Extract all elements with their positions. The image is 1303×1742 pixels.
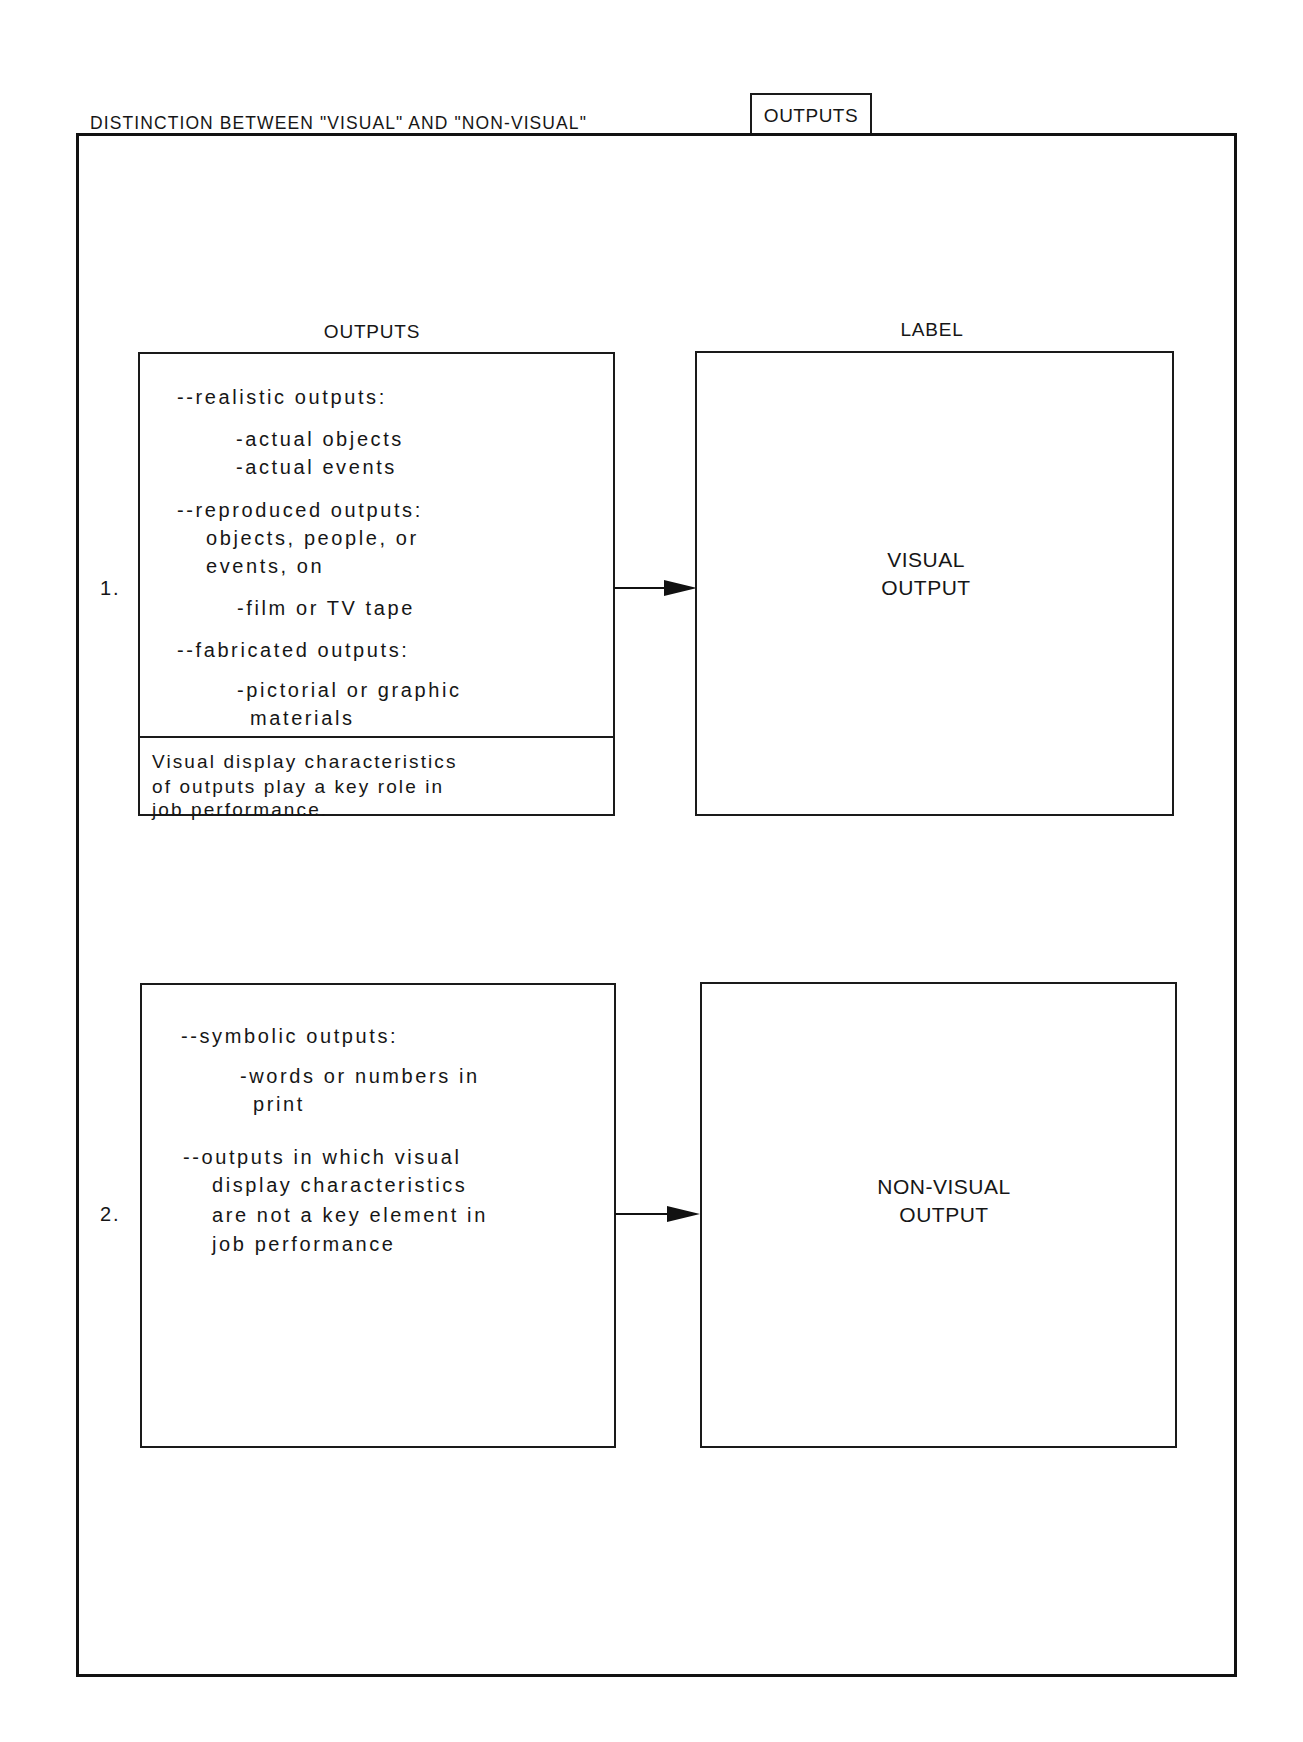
label-line: OUTPUT [881, 574, 970, 602]
output-line: -words or numbers in [240, 1064, 480, 1088]
label-column-heading: LABEL [900, 319, 963, 341]
caption-line: of outputs play a key role in [152, 775, 444, 798]
label-line: OUTPUT [877, 1201, 1010, 1229]
output-line: job performance [212, 1232, 396, 1256]
caption-line: Visual display characteristics [152, 750, 458, 773]
output-line: are not a key element in [212, 1203, 488, 1227]
caption-line: job performance. [152, 798, 328, 821]
output-line: --symbolic outputs: [181, 1024, 398, 1048]
output-line: -pictorial or graphic [237, 678, 462, 702]
output-line: -actual objects [236, 427, 404, 451]
output-line: events, on [206, 554, 324, 578]
output-line: --outputs in which visual [183, 1145, 461, 1169]
label-line: VISUAL [881, 546, 970, 574]
arrow-2-shaft [615, 1213, 671, 1215]
arrow-1-shaft [614, 587, 670, 589]
arrow-right-icon [664, 580, 697, 596]
output-line: --realistic outputs: [177, 385, 387, 409]
label-line: NON-VISUAL [877, 1173, 1010, 1201]
output-line: objects, people, or [206, 526, 419, 550]
output-line: -film or TV tape [237, 596, 415, 620]
diagram-title: DISTINCTION BETWEEN "VISUAL" AND "NON-VI… [90, 112, 587, 134]
row-number-2: 2. [100, 1203, 121, 1226]
outputs-tab-label: OUTPUTS [750, 93, 872, 134]
output-line: display characteristics [212, 1173, 467, 1197]
output-line: materials [250, 706, 355, 730]
output-line: --fabricated outputs: [177, 638, 409, 662]
output-line: print [253, 1092, 305, 1116]
output-line: --reproduced outputs: [177, 498, 423, 522]
output-line: -actual events [236, 455, 397, 479]
visual-outputs-box [138, 352, 615, 816]
non-visual-output-label: NON-VISUAL OUTPUT [877, 1173, 1010, 1229]
outputs-tab-text: OUTPUTS [764, 105, 858, 127]
row-number-1: 1. [100, 577, 121, 600]
arrow-right-icon [667, 1206, 700, 1222]
caption-divider [138, 736, 615, 738]
outputs-column-heading: OUTPUTS [324, 321, 420, 343]
visual-output-label: VISUAL OUTPUT [881, 546, 970, 602]
